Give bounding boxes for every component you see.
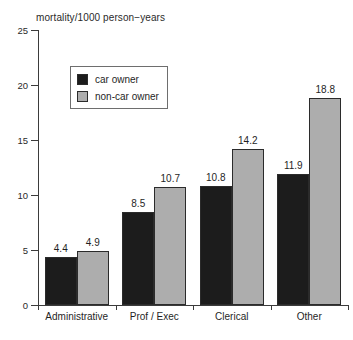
y-axis-tick-label: 20: [17, 80, 28, 91]
bar: [200, 186, 232, 305]
x-axis-category-label: Clerical: [215, 311, 248, 322]
legend-swatch-icon: [77, 91, 88, 102]
bar-value-label: 4.4: [54, 243, 68, 254]
bar: [45, 257, 77, 305]
bar: [77, 251, 109, 305]
legend-swatch-icon: [77, 74, 88, 85]
y-axis-tick-label: 5: [23, 245, 28, 256]
bar-value-label: 10.7: [161, 173, 180, 184]
bar-value-label: 18.8: [316, 84, 335, 95]
legend-item-car-owner: car owner: [77, 72, 159, 86]
x-axis-category-label: Administrative: [45, 311, 108, 322]
legend-item-label: non-car owner: [95, 91, 159, 102]
x-axis-tick: [271, 305, 272, 310]
y-axis-tick-labels: 0510152025: [0, 0, 28, 340]
bar-value-label: 4.9: [86, 237, 100, 248]
bar-chart: mortality/1000 person−years 0510152025 4…: [0, 0, 353, 340]
y-axis-tick: [31, 195, 38, 196]
y-axis-tick: [31, 140, 38, 141]
y-axis-tick: [31, 85, 38, 86]
y-axis-tick-label: 25: [17, 25, 28, 36]
y-axis-tick: [31, 305, 38, 306]
bar: [232, 149, 264, 305]
x-axis-category-label: Other: [297, 311, 322, 322]
x-axis-category-label: Prof / Exec: [130, 311, 179, 322]
x-axis-tick: [193, 305, 194, 310]
bar-value-label: 10.8: [206, 172, 225, 183]
x-axis-tick: [348, 305, 349, 310]
x-axis-tick: [116, 305, 117, 310]
chart-title: mortality/1000 person−years: [36, 12, 165, 23]
bar-value-label: 14.2: [238, 135, 257, 146]
bar: [154, 187, 186, 305]
legend-item-non-car-owner: non-car owner: [77, 89, 159, 103]
bar: [277, 174, 309, 305]
bar-value-label: 8.5: [131, 198, 145, 209]
legend-item-label: car owner: [95, 74, 139, 85]
y-axis-tick-label: 15: [17, 135, 28, 146]
y-axis-tick-label: 10: [17, 190, 28, 201]
y-axis-tick: [31, 30, 38, 31]
y-axis-tick-label: 0: [23, 300, 28, 311]
bar: [309, 98, 341, 305]
y-axis-tick: [31, 250, 38, 251]
bar-value-label: 11.9: [284, 160, 303, 171]
bar: [122, 212, 154, 306]
chart-legend: car owner non-car owner: [70, 66, 168, 109]
x-axis-tick: [38, 305, 39, 310]
